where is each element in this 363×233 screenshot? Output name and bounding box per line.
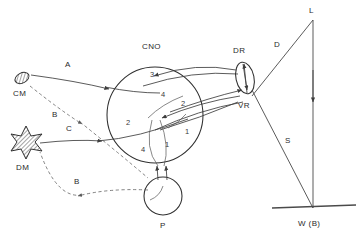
label-S: S [285, 136, 291, 145]
cno-number-2a: 2 [181, 99, 185, 108]
label-D: D [274, 40, 280, 49]
label-B-lower: B [74, 177, 80, 186]
cno-number-1a: 1 [185, 127, 189, 136]
dm-label: DM [16, 163, 29, 172]
cno-number-4b: 4 [141, 145, 145, 154]
cno-label: CNO [142, 42, 161, 51]
cno-number-3: 3 [150, 70, 154, 79]
cno-number-4a: 4 [161, 90, 165, 99]
cno-number-1b: 1 [165, 140, 169, 149]
cm-label: CM [13, 89, 26, 98]
label-A: A [65, 60, 71, 69]
wb-label: W (B) [298, 219, 320, 228]
label-C: C [66, 124, 72, 133]
pathway-diagram: CNO P CM DM DR VR L W (B) [0, 0, 363, 233]
label-B-upper: B [52, 110, 58, 119]
cno-number-2b: 2 [126, 118, 130, 127]
p-label: P [160, 221, 166, 230]
l-label: L [309, 6, 314, 15]
dr-label: DR [233, 46, 245, 55]
